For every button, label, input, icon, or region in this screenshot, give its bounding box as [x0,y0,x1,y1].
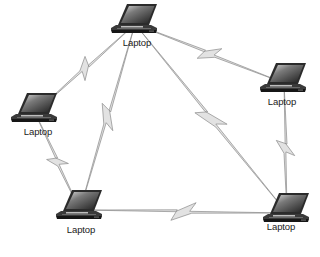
laptop-icon[interactable] [260,63,306,92]
laptop-icon[interactable] [11,93,57,122]
node-label-right: Laptop [268,96,296,107]
laptop-icon[interactable] [263,193,309,222]
network-diagram: LaptopLaptopLaptopLaptopLaptop [0,0,320,257]
node-label-bottom-right: Laptop [267,221,295,232]
node-label-bottom-left: Laptop [67,224,95,235]
wireless-link-top-right [135,24,284,83]
laptop-icon[interactable] [111,4,157,33]
node-label-left: Laptop [24,126,52,137]
wireless-link-bottom-left-bottom-right [80,203,287,221]
laptop-icon[interactable] [56,190,102,219]
node-label-top: Laptop [123,37,151,48]
wireless-link-top-bottom-left [80,24,135,210]
